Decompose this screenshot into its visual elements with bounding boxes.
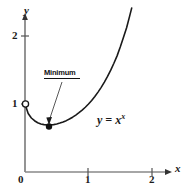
x-axis-arrowhead [165, 169, 172, 175]
minimum-annotation-label: Minimum [44, 69, 76, 77]
y-tick-label-2: 2 [12, 30, 18, 41]
x-tick-label-1: 1 [85, 174, 91, 185]
minimum-point-marker [46, 123, 52, 129]
plot-svg [0, 0, 191, 193]
curve-y-equals-x-to-the-x [25, 8, 132, 125]
y-tick-label-1: 1 [12, 98, 18, 109]
annotation-leader-line [50, 82, 62, 118]
x-tick-label-2: 2 [149, 174, 155, 185]
equation-base: y = x [97, 113, 121, 127]
x-tick-label-0: 0 [18, 174, 24, 185]
figure-container: y x 2 1 0 1 2 Minimum y = xx [0, 0, 191, 193]
curve-equation-label: y = xx [97, 114, 125, 126]
open-circle-endpoint-marker [22, 101, 28, 107]
y-axis-label: y [24, 5, 29, 16]
equation-exponent: x [121, 112, 125, 121]
x-axis-label: x [175, 163, 181, 174]
